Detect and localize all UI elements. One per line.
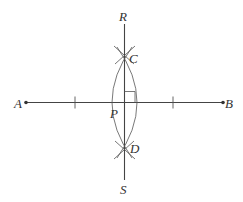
label-c: C	[129, 51, 138, 66]
label-s: S	[120, 182, 127, 197]
label-d: D	[129, 141, 140, 156]
perpendicular-bisector-diagram: R C A B P D S	[0, 0, 243, 202]
label-b: B	[225, 96, 233, 111]
label-r: R	[118, 9, 127, 24]
right-angle-marker	[125, 92, 136, 103]
label-p: P	[109, 106, 118, 121]
point-a-dot	[24, 101, 28, 105]
label-a: A	[13, 96, 22, 111]
diagram-canvas: R C A B P D S	[0, 0, 243, 202]
